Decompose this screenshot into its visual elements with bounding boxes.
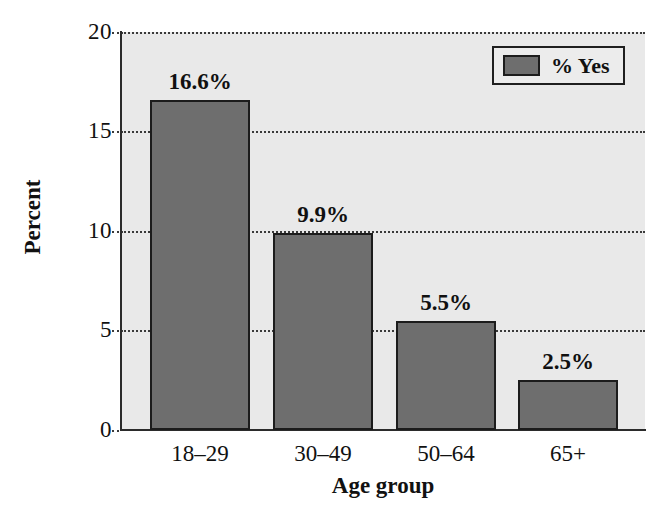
legend[interactable]: % Yes <box>492 46 625 85</box>
legend-swatch-yes <box>503 55 540 76</box>
bar-value-50-64: 5.5% <box>396 290 496 316</box>
xtick-label-50-64: 50–64 <box>396 441 496 467</box>
bar-18-29[interactable] <box>150 100 250 430</box>
ytick-label-15-wrap: 15 <box>58 119 112 142</box>
gridline-20 <box>121 32 645 34</box>
xtick-label-30-49: 30–49 <box>273 441 373 467</box>
legend-label-yes: % Yes <box>551 54 609 78</box>
y-axis-line <box>120 31 122 431</box>
bar-value-30-49: 9.9% <box>273 202 373 228</box>
ytick-label-15: 15 <box>66 119 112 142</box>
bar-value-65-plus: 2.5% <box>518 349 618 375</box>
ytick-mark-5 <box>112 330 119 332</box>
xtick-label-65-plus: 65+ <box>518 441 618 467</box>
ytick-label-5: 5 <box>66 318 112 341</box>
ytick-label-20: 20 <box>66 20 112 43</box>
ytick-label-0-wrap: 0 <box>58 418 112 441</box>
bar-30-49[interactable] <box>273 233 373 430</box>
ytick-label-20-wrap: 20 <box>58 20 112 43</box>
ytick-label-5-wrap: 5 <box>58 318 112 341</box>
ytick-mark-0 <box>112 430 119 432</box>
ytick-mark-15 <box>112 131 119 133</box>
ytick-label-10-wrap: 10 <box>58 219 112 242</box>
ytick-label-0: 0 <box>66 418 112 441</box>
bar-chart: 20 15 10 5 0 16.6% 9.9% 5.5% 2.5% 18–29 … <box>0 0 657 517</box>
bar-65-plus[interactable] <box>518 380 618 430</box>
xtick-label-18-29: 18–29 <box>150 441 250 467</box>
x-axis-title: Age group <box>121 473 645 499</box>
ytick-label-10: 10 <box>66 219 112 242</box>
y-axis-title: Percent <box>20 137 46 297</box>
bar-50-64[interactable] <box>396 321 496 430</box>
ytick-mark-10 <box>112 231 119 233</box>
bar-value-18-29: 16.6% <box>150 69 250 95</box>
ytick-mark-20 <box>112 32 119 34</box>
